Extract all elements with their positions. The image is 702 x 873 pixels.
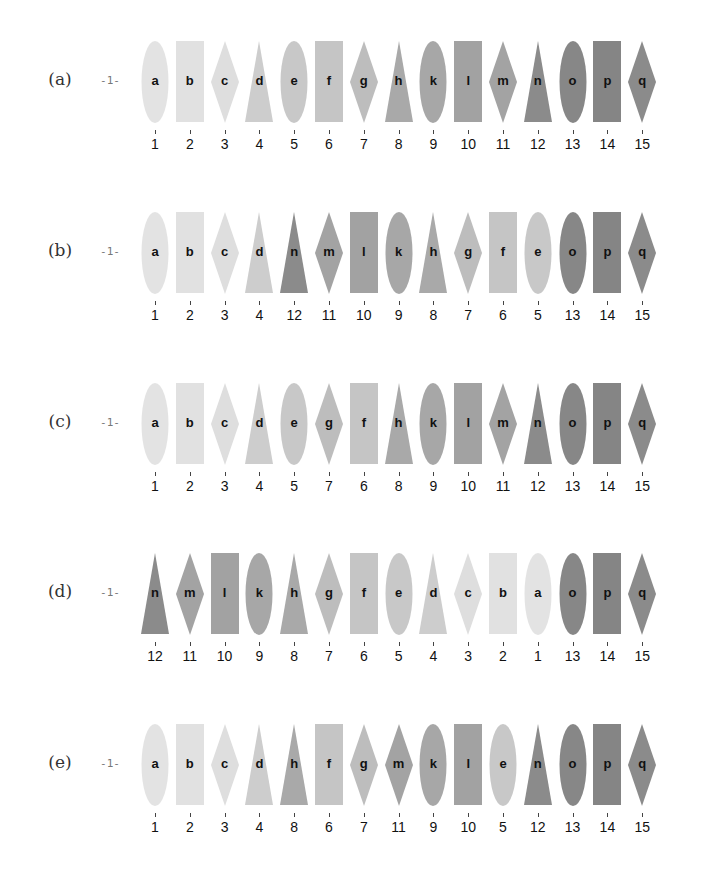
item-letter: d bbox=[242, 73, 276, 88]
item-letter: l bbox=[451, 73, 485, 88]
item-letter: d bbox=[416, 585, 450, 600]
tick-mark bbox=[642, 301, 643, 305]
item-letter: f bbox=[347, 585, 381, 600]
item-letter: h bbox=[382, 73, 416, 88]
tick-mark bbox=[468, 642, 469, 646]
tick-mark bbox=[503, 642, 504, 646]
item-number: 15 bbox=[619, 136, 665, 152]
sequence-item: q15 bbox=[625, 199, 659, 329]
item-letter: k bbox=[416, 415, 450, 430]
item-letter: q bbox=[625, 415, 659, 430]
item-number: 15 bbox=[619, 648, 665, 664]
tick-mark bbox=[225, 472, 226, 476]
item-letter: o bbox=[556, 756, 590, 771]
tick-mark bbox=[468, 472, 469, 476]
tick-mark bbox=[538, 642, 539, 646]
item-letter: p bbox=[590, 756, 624, 771]
tick-mark bbox=[399, 642, 400, 646]
item-letter: e bbox=[486, 756, 520, 771]
item-letter: o bbox=[556, 415, 590, 430]
tick-mark bbox=[190, 472, 191, 476]
item-letter: m bbox=[382, 756, 416, 771]
item-letter: d bbox=[242, 415, 276, 430]
item-letter: f bbox=[312, 73, 346, 88]
row-c: (c)-1-a1b2c3d4e5g7f6h8k9l10m11n12o13p14q… bbox=[0, 370, 702, 520]
sequence-item: q15 bbox=[625, 370, 659, 500]
tick-mark bbox=[155, 642, 156, 646]
item-letter: p bbox=[590, 73, 624, 88]
item-letter: f bbox=[312, 756, 346, 771]
row-label: (e) bbox=[40, 752, 80, 772]
tick-mark bbox=[294, 472, 295, 476]
item-letter: g bbox=[347, 756, 381, 771]
tick-mark bbox=[259, 813, 260, 817]
position-marker: -1- bbox=[92, 416, 128, 429]
item-letter: c bbox=[451, 585, 485, 600]
item-letter: m bbox=[486, 73, 520, 88]
tick-mark bbox=[399, 130, 400, 134]
item-letter: f bbox=[347, 415, 381, 430]
item-letter: h bbox=[277, 585, 311, 600]
tick-mark bbox=[225, 813, 226, 817]
item-letter: b bbox=[173, 756, 207, 771]
item-letter: m bbox=[486, 415, 520, 430]
item-letter: e bbox=[382, 585, 416, 600]
tick-mark bbox=[573, 642, 574, 646]
tick-mark bbox=[190, 301, 191, 305]
tick-mark bbox=[538, 813, 539, 817]
sequence-item: q15 bbox=[625, 28, 659, 158]
item-letter: k bbox=[416, 73, 450, 88]
tick-mark bbox=[294, 642, 295, 646]
tick-mark bbox=[573, 472, 574, 476]
item-letter: e bbox=[277, 73, 311, 88]
item-letter: c bbox=[208, 73, 242, 88]
item-letter: q bbox=[625, 244, 659, 259]
item-letter: h bbox=[277, 756, 311, 771]
item-letter: b bbox=[173, 415, 207, 430]
tick-mark bbox=[503, 813, 504, 817]
tick-mark bbox=[364, 130, 365, 134]
item-letter: l bbox=[451, 415, 485, 430]
tick-mark bbox=[642, 642, 643, 646]
tick-mark bbox=[433, 813, 434, 817]
tick-mark bbox=[433, 472, 434, 476]
tick-mark bbox=[607, 642, 608, 646]
item-letter: b bbox=[486, 585, 520, 600]
row-e: (e)-1-a1b2c3d4h8f6g7m11k9l10e5n12o13p14q… bbox=[0, 711, 702, 861]
tick-mark bbox=[155, 472, 156, 476]
item-letter: a bbox=[138, 415, 172, 430]
tick-mark bbox=[433, 130, 434, 134]
item-letter: c bbox=[208, 756, 242, 771]
item-letter: o bbox=[556, 585, 590, 600]
item-letter: a bbox=[138, 756, 172, 771]
tick-mark bbox=[190, 130, 191, 134]
tick-mark bbox=[225, 301, 226, 305]
position-marker: -1- bbox=[92, 586, 128, 599]
item-letter: p bbox=[590, 244, 624, 259]
item-letter: b bbox=[173, 73, 207, 88]
tick-mark bbox=[259, 642, 260, 646]
tick-mark bbox=[642, 472, 643, 476]
tick-mark bbox=[607, 130, 608, 134]
position-marker: -1- bbox=[92, 74, 128, 87]
sequence-item: q15 bbox=[625, 540, 659, 670]
item-letter: h bbox=[382, 415, 416, 430]
item-letter: c bbox=[208, 415, 242, 430]
item-letter: l bbox=[451, 756, 485, 771]
item-letter: d bbox=[242, 756, 276, 771]
item-letter: n bbox=[138, 585, 172, 600]
row-label: (c) bbox=[40, 411, 80, 431]
item-letter: p bbox=[590, 585, 624, 600]
tick-mark bbox=[399, 813, 400, 817]
tick-mark bbox=[329, 472, 330, 476]
item-letter: o bbox=[556, 244, 590, 259]
row-a: (a)-1-a1b2c3d4e5f6g7h8k9l10m11n12o13p14q… bbox=[0, 28, 702, 178]
item-letter: m bbox=[173, 585, 207, 600]
item-letter: l bbox=[347, 244, 381, 259]
item-letter: n bbox=[521, 415, 555, 430]
tick-mark bbox=[642, 130, 643, 134]
tick-mark bbox=[364, 472, 365, 476]
item-letter: g bbox=[312, 585, 346, 600]
item-letter: a bbox=[138, 73, 172, 88]
tick-mark bbox=[433, 301, 434, 305]
